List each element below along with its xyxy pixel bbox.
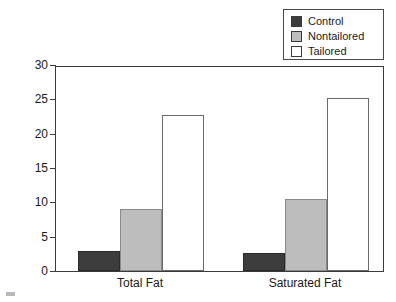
y-tick-mark	[50, 134, 56, 135]
x-category-label: Saturated Fat	[245, 276, 365, 290]
bar-tailored-saturated-fat	[327, 98, 369, 271]
y-tick-label: 20	[24, 128, 48, 140]
y-tick-label: 10	[24, 196, 48, 208]
legend-item: Tailored	[291, 44, 383, 58]
legend-item: Control	[291, 14, 383, 28]
y-tick-label: 0	[24, 265, 48, 277]
scan-artifact	[6, 292, 15, 296]
chart-legend: Control Nontailored Tailored	[283, 9, 384, 60]
y-tick-mark	[50, 168, 56, 169]
y-tick-mark	[50, 202, 56, 203]
legend-swatch-nontailored	[291, 31, 302, 42]
y-tick-mark	[50, 237, 56, 238]
legend-label-nontailored: Nontailored	[308, 31, 364, 42]
legend-swatch-tailored	[291, 46, 302, 57]
legend-swatch-control	[291, 16, 302, 27]
y-tick-label: 25	[24, 93, 48, 105]
legend-label-tailored: Tailored	[308, 46, 347, 57]
legend-label-control: Control	[308, 16, 343, 27]
y-tick-mark	[50, 271, 56, 272]
bar-nontailored-total-fat	[120, 209, 162, 271]
y-tick-label: 15	[24, 162, 48, 174]
y-tick-label: 30	[24, 59, 48, 71]
legend-item: Nontailored	[291, 29, 383, 43]
bar-tailored-total-fat	[162, 115, 204, 271]
bar-control-total-fat	[78, 251, 120, 271]
y-tick-mark	[50, 99, 56, 100]
bar-nontailored-saturated-fat	[285, 199, 327, 271]
x-category-label: Total Fat	[80, 276, 200, 290]
plot-inner: 051015202530	[56, 67, 383, 271]
bar-control-saturated-fat	[243, 253, 285, 271]
plot-area: 051015202530	[55, 66, 384, 272]
y-tick-label: 5	[24, 231, 48, 243]
y-tick-mark	[50, 65, 56, 66]
